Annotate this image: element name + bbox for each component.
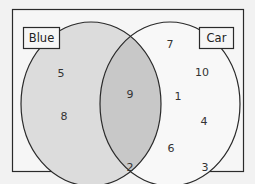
value-car-only: 6 (168, 142, 175, 155)
value-outside: 3 (202, 161, 209, 174)
set-blue-label-text: Blue (29, 31, 54, 45)
value-car-only: 10 (195, 66, 209, 79)
value-intersection: 9 (127, 88, 134, 101)
venn-svg: Blue Car 5 8 9 7 10 1 4 6 2 3 (0, 0, 255, 184)
set-car-label: Car (200, 28, 234, 49)
value-car-only: 7 (167, 38, 174, 51)
value-blue-only: 5 (58, 67, 65, 80)
value-blue-only: 8 (61, 110, 68, 123)
venn-diagram: Blue Car 5 8 9 7 10 1 4 6 2 3 (0, 0, 255, 184)
set-car-label-text: Car (207, 31, 227, 45)
set-blue-label: Blue (24, 28, 60, 49)
value-outside: 2 (127, 161, 134, 174)
value-car-only: 4 (201, 115, 208, 128)
value-car-only: 1 (175, 90, 182, 103)
